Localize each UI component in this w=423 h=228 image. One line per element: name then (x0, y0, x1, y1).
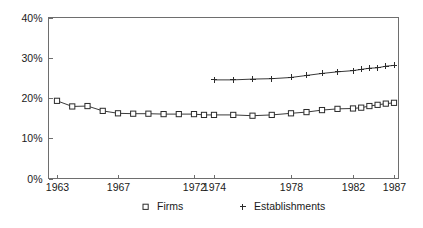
x-axis-label: 1978 (280, 181, 304, 193)
data-point-square (211, 112, 216, 117)
data-point-square (391, 100, 396, 105)
data-point-square (70, 104, 75, 109)
chart-container: 0%10%20%30%40%19631967197219741978198219… (0, 0, 423, 228)
data-point-square (350, 106, 355, 111)
data-point-square (115, 111, 120, 116)
x-axis-label: 1974 (203, 181, 227, 193)
legend-marker-square (143, 204, 148, 209)
x-axis-label: 1982 (342, 181, 366, 193)
data-point-square (201, 112, 206, 117)
legend-item-firms[interactable]: Firms (143, 200, 183, 212)
y-axis-label: 10% (21, 132, 42, 144)
line-chart: 0%10%20%30%40%19631967197219741978198219… (0, 0, 423, 228)
data-point-square (250, 113, 255, 118)
data-point-square (161, 112, 166, 117)
data-point-square (304, 109, 309, 114)
data-point-square (191, 112, 196, 117)
x-axis-label: 1967 (107, 181, 131, 193)
y-axis-label: 0% (27, 173, 42, 185)
plot-frame (49, 18, 399, 179)
data-point-square (85, 103, 90, 108)
data-point-square (131, 111, 136, 116)
y-axis-label: 40% (21, 12, 42, 24)
data-point-square (319, 107, 324, 112)
data-point-square (54, 98, 59, 103)
x-axis-label: 1987 (383, 181, 407, 193)
y-axis-label: 20% (21, 92, 42, 104)
legend-label: Firms (157, 200, 183, 212)
legend-label: Establishments (254, 200, 325, 212)
data-point-square (231, 112, 236, 117)
data-point-square (100, 108, 105, 113)
data-point-square (146, 111, 151, 116)
data-point-square (288, 111, 293, 116)
data-point-square (269, 112, 274, 117)
x-axis-label: 1963 (46, 181, 70, 193)
legend-item-establishments[interactable]: Establishments (240, 200, 326, 212)
data-point-square (383, 101, 388, 106)
data-point-square (367, 103, 372, 108)
data-point-square (375, 102, 380, 107)
data-point-square (176, 112, 181, 117)
data-point-square (335, 106, 340, 111)
y-axis-label: 30% (21, 52, 42, 64)
data-point-square (359, 105, 364, 110)
